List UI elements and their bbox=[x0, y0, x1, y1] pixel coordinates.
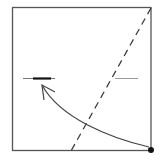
origami-diagram bbox=[0, 0, 164, 161]
corner-dot bbox=[148, 147, 154, 153]
valley-fold-line bbox=[71, 8, 151, 151]
fold-arrow-icon bbox=[42, 85, 149, 147]
